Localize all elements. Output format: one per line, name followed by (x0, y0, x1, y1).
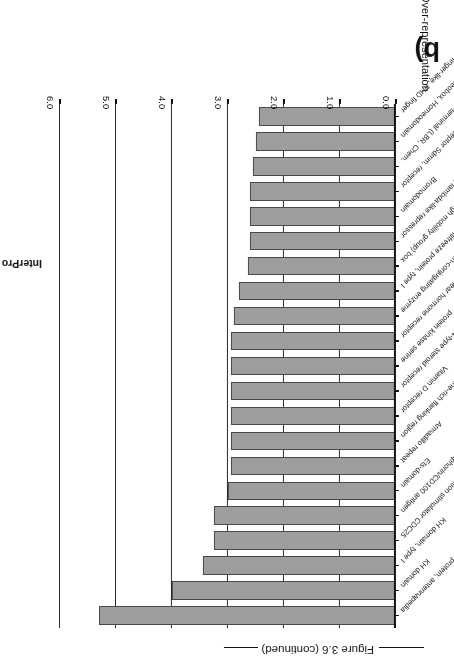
bar-row (250, 207, 396, 225)
bar-row (256, 132, 396, 150)
value-axis-title: Over-representation (420, 0, 432, 92)
bar (250, 232, 396, 250)
bar (256, 132, 396, 150)
caption-rule-right (224, 647, 258, 648)
value-tick-label: 1.0 (325, 96, 336, 109)
value-tick (115, 99, 116, 104)
bar (172, 581, 396, 599)
value-tick-label: 5.0 (101, 96, 112, 109)
bar-row (231, 357, 396, 375)
bar (231, 407, 396, 425)
bar (214, 507, 396, 525)
bar-row (253, 157, 396, 175)
bar-row (250, 182, 396, 200)
bar (214, 531, 396, 549)
value-tick-label: 0.0 (381, 96, 392, 109)
bar-row (228, 482, 396, 500)
value-tick-label: 3.0 (213, 96, 224, 109)
bar-row (231, 457, 396, 475)
bar (99, 606, 396, 624)
rotated-content: Figure 3.6 (continued) b) Homeobox prote… (0, 0, 454, 672)
bar (231, 432, 396, 450)
bar (231, 457, 396, 475)
bar-row (231, 432, 396, 450)
bar-row (259, 107, 396, 125)
bar-row (239, 282, 396, 300)
bar (228, 482, 396, 500)
bar (250, 182, 396, 200)
value-axis-baseline (395, 104, 397, 628)
value-tick (395, 99, 396, 104)
value-tick (171, 99, 172, 104)
value-tick-label: 4.0 (157, 96, 168, 109)
bar (203, 556, 396, 574)
value-tick (59, 99, 60, 104)
bar-row (250, 232, 396, 250)
bar-row (248, 257, 396, 275)
bar (250, 207, 396, 225)
bar (259, 107, 396, 125)
bar (248, 257, 396, 275)
bar (234, 307, 396, 325)
value-tick (339, 99, 340, 104)
value-tick (227, 99, 228, 104)
bar-row (234, 307, 396, 325)
bar (231, 382, 396, 400)
bar (231, 357, 396, 375)
gridline (59, 104, 60, 628)
bar (231, 332, 396, 350)
bar-row (231, 332, 396, 350)
bar-row (231, 407, 396, 425)
gridline (115, 104, 116, 628)
plot-area (60, 104, 396, 628)
caption-rule-left (379, 647, 424, 648)
value-tick (283, 99, 284, 104)
bar-row (99, 606, 396, 624)
figure-page: Figure 3.6 (continued) b) Homeobox prote… (0, 0, 454, 672)
value-tick-label: 6.0 (45, 96, 56, 109)
bar (253, 157, 396, 175)
bar-row (214, 507, 396, 525)
bar-row (172, 581, 396, 599)
category-axis-title: InterPro Domain (0, 258, 42, 270)
bar-row (203, 556, 396, 574)
gridline (171, 104, 172, 628)
bar-row (231, 382, 396, 400)
bar (239, 282, 396, 300)
bar-chart: Homeobox protein, antennapediaKH domainK… (60, 104, 396, 628)
bar-row (214, 531, 396, 549)
value-tick-label: 2.0 (269, 96, 280, 109)
figure-caption: Figure 3.6 (continued) (261, 644, 374, 656)
